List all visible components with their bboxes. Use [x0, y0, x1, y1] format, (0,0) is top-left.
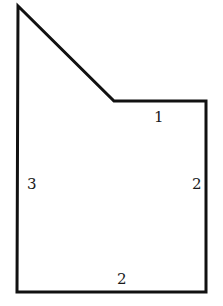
label-left-edge: 3 — [27, 175, 37, 193]
label-bottom-edge: 2 — [117, 270, 127, 288]
label-top-edge: 1 — [154, 108, 164, 126]
pentagon-outline — [17, 6, 206, 292]
label-right-edge: 2 — [192, 175, 202, 193]
polygon-diagram: 1 3 2 2 — [0, 0, 223, 306]
